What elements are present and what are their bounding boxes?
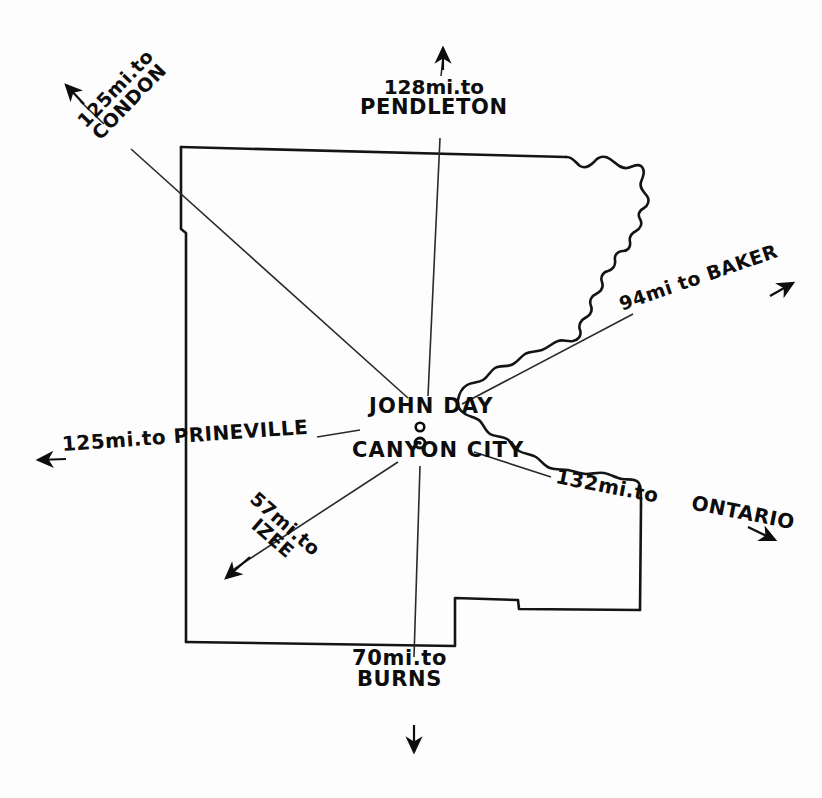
- map-drawing: [0, 0, 822, 798]
- arrow-izee: [226, 557, 250, 578]
- spoke-line-condon: [131, 149, 408, 398]
- spoke-lines: [80, 58, 633, 657]
- spoke-line-ontario: [474, 452, 551, 477]
- arrow-condon: [66, 85, 84, 104]
- arrow-prineville: [38, 459, 66, 460]
- county-boundary: [181, 147, 648, 646]
- city-marker-canyon-city-dot: [418, 441, 421, 444]
- map-canvas: JOHN DAY CANYON CITY 128mi.to PENDLETON …: [0, 0, 822, 798]
- city-markers: [415, 423, 425, 448]
- spoke-line-burns: [414, 466, 420, 657]
- spoke-line-condon-upper: [80, 101, 104, 124]
- arrow-ontario: [748, 527, 775, 540]
- spoke-line-izee: [228, 462, 398, 573]
- spoke-line-prineville: [317, 430, 360, 437]
- arrow-baker: [770, 283, 793, 296]
- spoke-line-pendleton: [428, 138, 440, 396]
- spoke-line-baker: [462, 314, 633, 404]
- city-marker-john-day: [416, 423, 425, 432]
